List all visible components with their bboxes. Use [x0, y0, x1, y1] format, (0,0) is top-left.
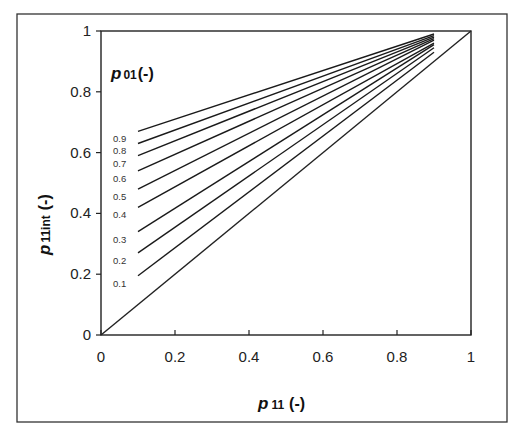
x-tick-label: 0.4 — [239, 348, 260, 365]
series-label-p01-0.8: 0.8 — [113, 145, 126, 156]
legend-title: p01(-) — [110, 64, 154, 83]
series-line-p01-0.1 — [138, 52, 434, 275]
series-line-p01-0.8 — [138, 36, 434, 144]
y-axis-title: p11int(-) — [35, 194, 54, 256]
y-tick-label: 0.2 — [70, 265, 91, 282]
x-tick-label: 0.2 — [165, 348, 186, 365]
series-label-p01-0.3: 0.3 — [113, 234, 126, 245]
series-label-p01-0.1: 0.1 — [113, 278, 126, 289]
series-labels: 0.90.80.70.60.50.40.30.20.1 — [113, 133, 126, 288]
x-tick-label: 0 — [97, 348, 105, 365]
series-label-p01-0.7: 0.7 — [113, 158, 126, 169]
y-tick-label: 0.4 — [70, 204, 91, 221]
series-line-p01-0.9 — [138, 34, 434, 131]
y-tick-label: 0 — [83, 326, 91, 343]
y-tick-label: 0.6 — [70, 144, 91, 161]
y-axis: 00.20.40.60.81 — [70, 22, 101, 343]
series-lines — [101, 31, 471, 335]
reference-line-y-equals-x — [101, 31, 471, 335]
x-tick-label: 1 — [467, 348, 475, 365]
series-label-p01-0.2: 0.2 — [113, 255, 126, 266]
y-tick-label: 0.8 — [70, 83, 91, 100]
series-label-p01-0.5: 0.5 — [113, 191, 126, 202]
series-label-p01-0.4: 0.4 — [113, 209, 126, 220]
x-axis-title: p11(-) — [257, 394, 305, 413]
series-line-p01-0.5 — [138, 40, 434, 189]
x-tick-label: 0.8 — [387, 348, 408, 365]
x-tick-label: 0.6 — [313, 348, 334, 365]
series-label-p01-0.9: 0.9 — [113, 133, 126, 144]
chart: 00.20.40.60.81 00.20.40.60.81 0.90.80.70… — [0, 0, 521, 430]
y-tick-label: 1 — [83, 22, 91, 39]
series-label-p01-0.6: 0.6 — [113, 173, 126, 184]
